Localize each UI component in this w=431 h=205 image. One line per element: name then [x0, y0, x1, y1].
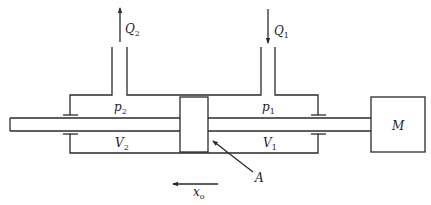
cylinder-top-wall	[70, 47, 318, 115]
label-piston-area: A	[254, 171, 264, 185]
area-pointer-arrow-icon	[213, 141, 253, 172]
label-displacement: xo	[193, 185, 205, 201]
label-pressure-left: p2	[114, 100, 127, 116]
piston-rod	[10, 118, 371, 131]
label-flow-out: Q2	[125, 22, 140, 38]
label-volume-right: V1	[263, 136, 277, 152]
label-volume-left: V2	[115, 136, 129, 152]
label-pressure-right: p1	[262, 100, 275, 116]
label-flow-in: Q1	[274, 24, 289, 40]
piston	[180, 97, 208, 152]
hydraulic-cylinder-diagram: Q2 Q1 p2 p1 V2 V1 M A xo	[0, 0, 431, 205]
label-mass: M	[391, 119, 405, 133]
cylinder-bottom-wall	[70, 134, 318, 153]
